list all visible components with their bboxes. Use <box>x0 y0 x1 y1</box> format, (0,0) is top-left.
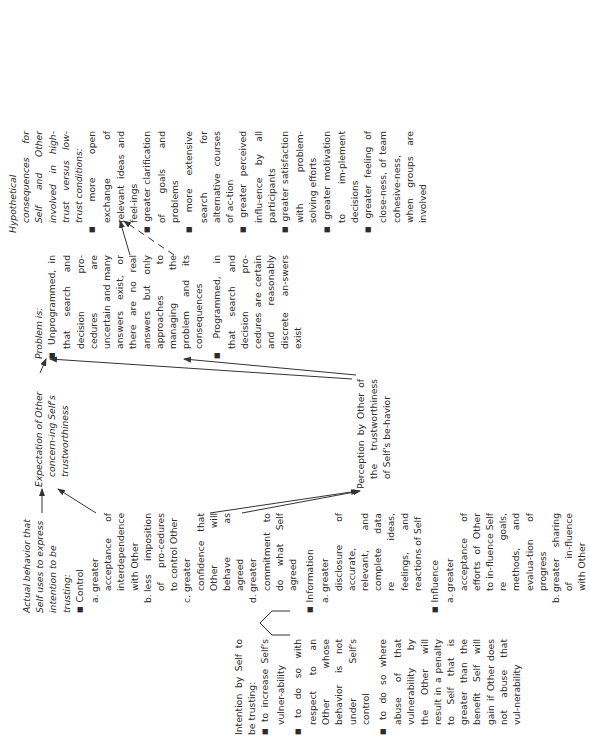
arrow-information-a-to-perception <box>210 491 358 513</box>
intention-item: to increase Self's vulner-ability <box>258 639 286 735</box>
perception-block: Perception by Other of the trustworthine… <box>354 379 394 489</box>
consequence-item: greater clarification of goals and probl… <box>140 131 182 233</box>
consequence-item: greater perceived influ-ence by all part… <box>236 131 278 233</box>
behavior-item: a.greater acceptance of interdependence … <box>88 513 141 613</box>
bracket-connector <box>260 611 290 635</box>
problem-item-unprogrammed: Unprogrammed, in that search and decisio… <box>45 255 205 359</box>
intention-title: Intention by Self to be trusting: <box>232 639 258 735</box>
expectation-title: Expectation of Other concern-ing Self's … <box>32 375 72 487</box>
consequence-item: more open exchange of relevant ideas and… <box>85 131 140 233</box>
group-heading-information: Information <box>303 513 318 613</box>
consequences-title: Hypothetical consequences for Self and O… <box>6 131 85 233</box>
consequence-item: greater satisfaction with problem-solvin… <box>278 131 320 233</box>
problem-title: Problem is: <box>32 255 45 359</box>
group-heading-influence: Influence <box>428 513 443 613</box>
behavior-item: a.greater disclosure of accurate, releva… <box>318 513 424 613</box>
expectation-block: Expectation of Other concern-ing Self's … <box>32 375 72 487</box>
consequences-block: Hypothetical consequences for Self and O… <box>6 131 429 233</box>
arrow-perception-to-programmed <box>184 359 356 375</box>
consequence-item: more extensive search for alternative co… <box>182 131 237 233</box>
perception-title: Perception by Other of the trustworthine… <box>354 379 394 489</box>
arrow-control-b-to-expectation <box>58 489 96 513</box>
arrow-expectation-to-unprogrammed <box>40 359 46 373</box>
problem-item-programmed: Programmed, in that search and decision … <box>210 255 304 359</box>
problem-block: Problem is: Unprogrammed, in that search… <box>32 255 304 359</box>
intention-item: to do so with respect to an Other whose … <box>291 639 372 735</box>
intention-list: to increase Self's vulner-ability to do … <box>258 639 523 735</box>
behavior-item: b.greater sharing of in-fluence with Oth… <box>549 513 589 613</box>
behavior-item: a.greater acceptance of efforts of Other… <box>443 513 549 613</box>
intention-block: Intention by Self to be trusting: to inc… <box>232 639 523 735</box>
figure-caption-clipped <box>396 4 402 737</box>
actual-behavior-block: Actual behavior that Self uses to expres… <box>20 513 589 613</box>
actual-behavior-title: Actual behavior that Self uses to expres… <box>20 513 73 613</box>
consequence-item: greater motivation to im-plement decisio… <box>320 131 362 233</box>
arrow-perception-to-unprogrammed <box>50 359 352 379</box>
behavior-item: b.less imposition of pro-cedures to cont… <box>141 513 181 613</box>
consequences-list: more open exchange of relevant ideas and… <box>85 131 429 233</box>
arrow-information-to-perception <box>242 491 360 513</box>
behavior-item: d.greater commitment to do what Self agr… <box>246 513 299 613</box>
group-heading-control: Control <box>73 513 88 613</box>
behavior-item: c.greater confidence that Other will beh… <box>180 513 246 613</box>
